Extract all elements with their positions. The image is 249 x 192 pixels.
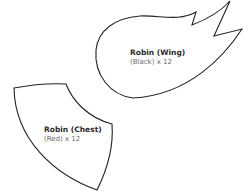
pattern-template (0, 0, 249, 192)
wing-piece-label: Robin (Wing) (Black) x 12 (130, 49, 185, 66)
wing-piece-name: Robin (Wing) (130, 49, 185, 58)
chest-piece-name: Robin (Chest) (44, 126, 102, 135)
wing-piece-detail: (Black) x 12 (130, 58, 185, 66)
chest-piece-detail: (Red) x 12 (44, 135, 102, 143)
chest-piece-label: Robin (Chest) (Red) x 12 (44, 126, 102, 143)
